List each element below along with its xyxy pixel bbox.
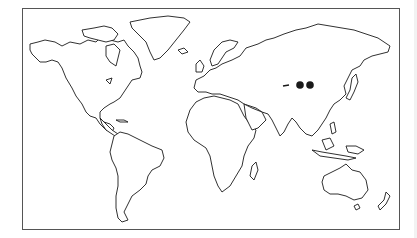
south-america	[110, 132, 164, 222]
arctic-islands	[82, 26, 118, 42]
new-guinea	[346, 146, 364, 154]
dash-mark	[283, 85, 289, 86]
borneo	[322, 138, 334, 150]
madagascar	[250, 162, 258, 180]
new-zealand	[378, 192, 390, 210]
philippines	[330, 122, 336, 134]
marker-2	[306, 81, 314, 89]
marker-1	[296, 81, 304, 89]
world-map	[0, 0, 417, 238]
cuba	[116, 120, 128, 122]
british-isles	[196, 60, 204, 72]
iceland	[178, 48, 188, 54]
tasmania	[354, 204, 360, 210]
north-america	[30, 38, 142, 132]
australia	[322, 164, 368, 200]
